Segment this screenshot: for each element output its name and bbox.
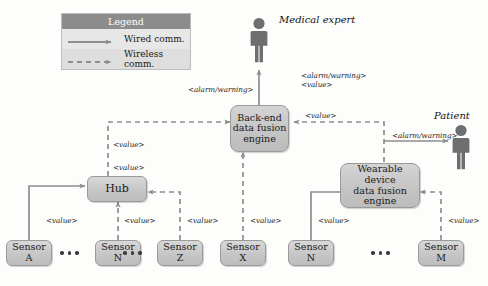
- backend-engine-label: Back-end data fusion engine: [233, 113, 287, 145]
- edge-label-backend-to-expert-value: <value>: [301, 80, 333, 89]
- sensor-m-label: Sensor M: [424, 242, 457, 263]
- legend-title: Legend: [62, 14, 190, 29]
- edge-label-sensor-x-value: <value>: [250, 216, 282, 225]
- wearable-device-data-fusion-engine-node[interactable]: Wearable device data fusion engine: [340, 163, 420, 208]
- sensor-z-label: Sensor Z: [163, 242, 196, 263]
- edge-label-hub-lower-value: <value>: [113, 163, 145, 172]
- legend-row-wired: Wired comm.: [62, 29, 190, 49]
- solid-arrow-icon: [67, 33, 119, 45]
- legend-row-wireless: Wireless comm.: [62, 49, 190, 69]
- edge-label-sensor-a-value: <value>: [46, 216, 78, 225]
- sensor-ellipsis-left: [60, 251, 79, 255]
- sensor-x-node[interactable]: Sensor X: [220, 240, 266, 266]
- medical-expert-label: Medical expert: [279, 14, 355, 25]
- sensor-n-right-label: Sensor N: [294, 242, 327, 263]
- legend: Legend Wired comm.: [61, 13, 191, 70]
- medical-expert-person-icon: [248, 17, 270, 63]
- sensor-x-label: Sensor X: [226, 242, 259, 263]
- hub-label: Hub: [105, 183, 129, 195]
- sensor-z-node[interactable]: Sensor Z: [157, 240, 203, 266]
- wearable-engine-label: Wearable device data fusion engine: [341, 164, 419, 207]
- edge-label-hub-upper-value: <value>: [113, 140, 145, 149]
- sensor-m-node[interactable]: Sensor M: [418, 240, 464, 266]
- edge-label-patient-alarm: <alarm/warning>: [392, 131, 458, 140]
- hub-node[interactable]: Hub: [87, 176, 147, 202]
- legend-label-wired: Wired comm.: [124, 34, 185, 44]
- wire-sensor-a-to-hub: [29, 186, 85, 240]
- edge-label-sensor-n-left-value: <value>: [124, 216, 156, 225]
- patient-label: Patient: [434, 110, 470, 121]
- legend-label-wireless: Wireless comm.: [124, 49, 190, 69]
- edge-label-wearable-to-backend-value: <value>: [305, 111, 337, 120]
- backend-data-fusion-engine-node[interactable]: Back-end data fusion engine: [230, 105, 289, 152]
- dashed-arrow-icon: [67, 53, 119, 65]
- sensor-a-node[interactable]: Sensor A: [6, 240, 52, 266]
- sensor-n-right-node[interactable]: Sensor N: [288, 240, 334, 266]
- sensor-ellipsis-mid: [123, 251, 142, 255]
- edge-label-expert-alarm: <alarm/warning>: [188, 85, 254, 94]
- diagram-canvas: Legend Wired comm.: [0, 0, 488, 286]
- sensor-ellipsis-right: [371, 251, 390, 255]
- edge-label-sensor-z-value: <value>: [187, 216, 219, 225]
- sensor-a-label: Sensor A: [12, 242, 45, 263]
- edge-label-sensor-m-value: <value>: [448, 216, 480, 225]
- wire-sensor-m-to-wearable: [420, 192, 441, 240]
- edge-label-backend-to-expert-alarm: <alarm/warning>: [301, 71, 367, 80]
- edge-label-sensor-n-right-value: <value>: [318, 216, 350, 225]
